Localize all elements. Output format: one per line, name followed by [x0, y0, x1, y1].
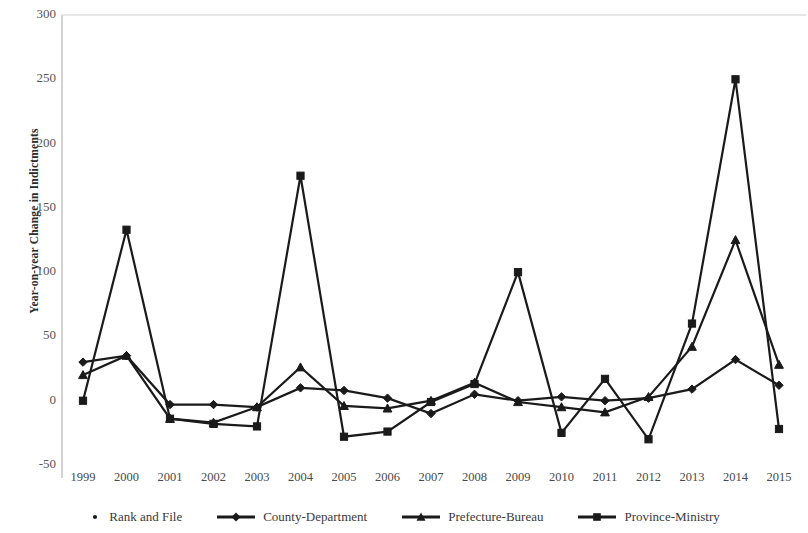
data-point-square: [123, 226, 130, 233]
data-point-square: [688, 320, 695, 327]
series-line: [83, 79, 779, 439]
data-point-square: [253, 423, 260, 430]
legend-marker-diamond-icon: [216, 511, 256, 523]
data-point-square: [427, 398, 434, 405]
data-point-square: [558, 429, 565, 436]
data-point-diamond: [340, 386, 348, 394]
data-point-triangle: [296, 363, 305, 371]
legend-item[interactable]: Prefecture-Bureau: [401, 509, 543, 525]
data-point-square: [601, 375, 608, 382]
data-point-diamond: [296, 384, 304, 392]
x-axis-tick-label: 2009: [496, 470, 540, 485]
series-prefecture-bureau: [79, 236, 784, 427]
data-point-square: [514, 269, 521, 276]
x-axis-tick-label: 2001: [148, 470, 192, 485]
chart-legend: Rank and FileCounty-DepartmentPrefecture…: [0, 500, 808, 533]
data-point-square: [297, 172, 304, 179]
data-point-square: [645, 436, 652, 443]
y-axis-tick-label: 0: [8, 392, 56, 408]
data-point-square: [732, 76, 739, 83]
data-point-diamond: [209, 400, 217, 408]
y-axis-tick-label: -50: [8, 456, 56, 472]
y-axis-tick-label: 200: [8, 135, 56, 151]
legend-item[interactable]: Province-Ministry: [577, 509, 719, 525]
data-point-diamond: [557, 393, 565, 401]
y-axis-tick-label: 50: [8, 327, 56, 343]
y-axis-tick-label: 300: [8, 6, 56, 22]
legend-marker-dot-icon: [88, 511, 102, 523]
data-point-square: [340, 433, 347, 440]
x-axis-tick-label: 2006: [366, 470, 410, 485]
series-province-ministry: [79, 76, 782, 443]
data-point-diamond: [383, 394, 391, 402]
legend-label: County-Department: [263, 509, 367, 525]
y-axis-tick-label: 100: [8, 263, 56, 279]
x-axis-tick-label: 2005: [322, 470, 366, 485]
chart-container: Year-on-year Change in Indictments -5005…: [0, 0, 808, 533]
legend-item[interactable]: Rank and File: [88, 509, 182, 525]
x-axis-tick-label: 2008: [453, 470, 497, 485]
data-point-square: [79, 397, 86, 404]
x-axis-tick-label: 2015: [757, 470, 801, 485]
data-point-square: [166, 415, 173, 422]
x-axis-tick-label: 1999: [61, 470, 105, 485]
x-axis-tick-label: 2011: [583, 470, 627, 485]
x-axis-tick-label: 2007: [409, 470, 453, 485]
x-axis-tick-label: 2014: [714, 470, 758, 485]
series-line: [83, 240, 779, 423]
data-point-diamond: [470, 390, 478, 398]
data-point-triangle: [688, 342, 697, 350]
data-point-triangle: [731, 236, 740, 244]
data-point-triangle: [775, 360, 784, 368]
data-point-square: [210, 420, 217, 427]
x-axis-tick-label: 2002: [192, 470, 236, 485]
plot-area: [0, 0, 808, 533]
x-axis-tick-label: 2003: [235, 470, 279, 485]
data-point-square: [471, 380, 478, 387]
y-axis-tick-label: 150: [8, 199, 56, 215]
x-axis-tick-label: 2013: [670, 470, 714, 485]
legend-marker-triangle-icon: [401, 511, 441, 523]
x-axis-tick-label: 2000: [105, 470, 149, 485]
y-axis-tick-label: 250: [8, 70, 56, 86]
data-point-square: [775, 425, 782, 432]
data-point-square: [384, 428, 391, 435]
legend-marker-square-icon: [577, 511, 617, 523]
legend-label: Rank and File: [109, 509, 182, 525]
data-point-diamond: [79, 358, 87, 366]
legend-label: Prefecture-Bureau: [448, 509, 543, 525]
data-point-diamond: [601, 397, 609, 405]
legend-label: Province-Ministry: [624, 509, 719, 525]
data-point-diamond: [427, 409, 435, 417]
x-axis-tick-label: 2004: [279, 470, 323, 485]
x-axis-tick-label: 2012: [627, 470, 671, 485]
y-axis-tick-labels: -50050100150200250300: [0, 0, 56, 533]
x-axis-tick-label: 2010: [540, 470, 584, 485]
legend-item[interactable]: County-Department: [216, 509, 367, 525]
